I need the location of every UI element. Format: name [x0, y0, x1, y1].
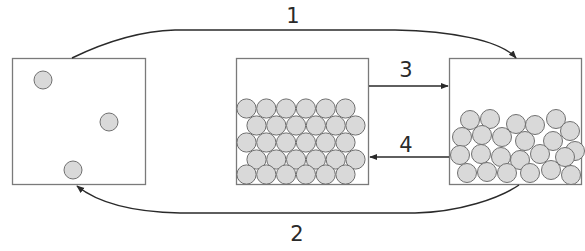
arrow-4-label: 4 — [399, 135, 412, 156]
particle — [478, 163, 497, 182]
particle — [336, 165, 355, 184]
particle — [316, 165, 335, 184]
particle — [336, 133, 355, 152]
arrow-2-label: 2 — [290, 224, 303, 245]
particle — [277, 133, 296, 152]
gas-box — [13, 59, 146, 185]
arrow-1 — [72, 30, 516, 58]
particle — [493, 128, 512, 147]
diagram-canvas — [0, 0, 585, 251]
particle — [336, 99, 355, 118]
particle — [458, 164, 477, 183]
particle — [562, 166, 581, 185]
particle — [296, 133, 315, 152]
solid-box — [237, 59, 369, 185]
particle — [296, 165, 315, 184]
particle — [287, 116, 306, 135]
particle — [267, 116, 286, 135]
particle — [296, 99, 315, 118]
particle — [100, 113, 118, 131]
particle — [237, 133, 256, 152]
particle — [316, 133, 335, 152]
particle — [516, 132, 535, 151]
particle — [561, 122, 580, 141]
particle — [451, 146, 470, 165]
arrow-2 — [77, 185, 519, 213]
particle — [306, 116, 325, 135]
particle — [498, 164, 517, 183]
arrow-1-label: 1 — [286, 6, 299, 27]
particle — [257, 165, 276, 184]
particle — [326, 116, 345, 135]
particle — [64, 161, 82, 179]
particle — [247, 116, 266, 135]
particle — [257, 99, 276, 118]
particle — [277, 165, 296, 184]
particle — [472, 145, 491, 164]
particle — [277, 99, 296, 118]
particle — [237, 99, 256, 118]
phase-transition-diagram: 1 2 3 4 — [0, 0, 585, 251]
particle — [453, 128, 472, 147]
particle — [237, 165, 256, 184]
particle — [346, 116, 365, 135]
particle — [34, 71, 52, 89]
particle — [473, 126, 492, 145]
particle — [542, 161, 561, 180]
particle — [257, 133, 276, 152]
arrow-3-label: 3 — [399, 60, 412, 81]
particle — [521, 164, 540, 183]
liquid-box — [450, 59, 585, 185]
particle — [316, 99, 335, 118]
particle — [531, 145, 550, 164]
